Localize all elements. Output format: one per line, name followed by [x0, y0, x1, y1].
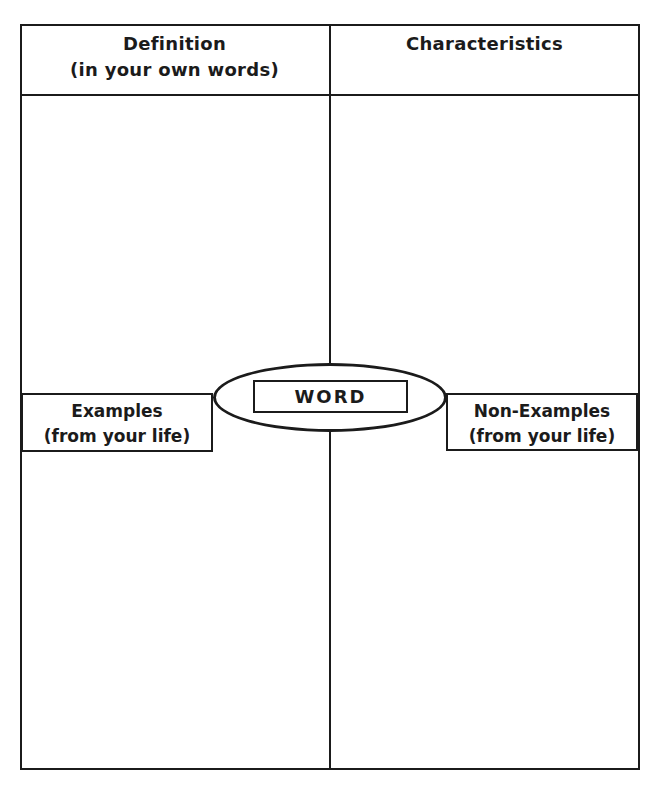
definition-header: Definition (in your own words): [20, 31, 329, 83]
examples-label-box: Examples (from your life): [21, 393, 213, 452]
examples-title: Examples: [23, 399, 211, 424]
frayer-model-worksheet: Definition (in your own words) Character…: [0, 0, 659, 796]
non-examples-subtitle: (from your life): [448, 424, 636, 449]
word-label: WORD: [295, 386, 367, 407]
word-box: WORD: [253, 380, 408, 413]
non-examples-title: Non-Examples: [448, 399, 636, 424]
characteristics-writing-area: [332, 96, 638, 391]
non-examples-writing-area: [332, 452, 638, 768]
non-examples-label-box: Non-Examples (from your life): [446, 393, 638, 451]
characteristics-header: Characteristics: [330, 31, 639, 57]
definition-title: Definition: [20, 31, 329, 57]
examples-subtitle: (from your life): [23, 424, 211, 449]
definition-subtitle: (in your own words): [20, 57, 329, 83]
examples-writing-area: [22, 454, 328, 768]
definition-writing-area: [22, 96, 328, 391]
characteristics-title: Characteristics: [330, 31, 639, 57]
header-separator-line: [20, 94, 640, 96]
